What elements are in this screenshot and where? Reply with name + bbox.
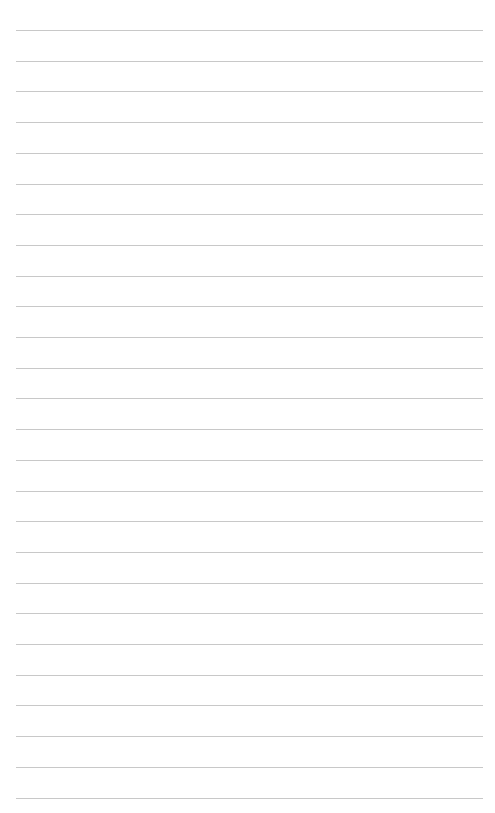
ruled-line <box>16 368 483 369</box>
ruled-line <box>16 613 483 614</box>
ruled-line <box>16 736 483 737</box>
ruled-line <box>16 460 483 461</box>
ruled-line <box>16 337 483 338</box>
ruled-line <box>16 429 483 430</box>
ruled-line <box>16 491 483 492</box>
ruled-line <box>16 184 483 185</box>
lined-paper-sheet <box>0 0 495 813</box>
ruled-line <box>16 521 483 522</box>
ruled-line <box>16 552 483 553</box>
ruled-line <box>16 306 483 307</box>
ruled-line <box>16 767 483 768</box>
ruled-line <box>16 798 483 799</box>
ruled-line <box>16 153 483 154</box>
ruled-line <box>16 61 483 62</box>
ruled-line <box>16 675 483 676</box>
ruled-line <box>16 91 483 92</box>
ruled-line <box>16 30 483 31</box>
ruled-line <box>16 583 483 584</box>
ruled-line <box>16 214 483 215</box>
ruled-line <box>16 398 483 399</box>
ruled-line <box>16 276 483 277</box>
ruled-line <box>16 245 483 246</box>
ruled-line <box>16 644 483 645</box>
ruled-line <box>16 705 483 706</box>
ruled-line <box>16 122 483 123</box>
